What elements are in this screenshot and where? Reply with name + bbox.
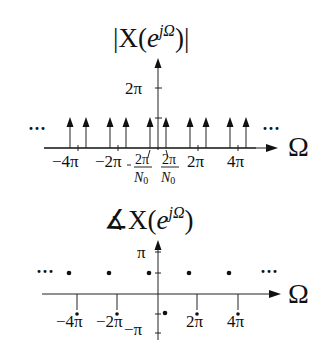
- svg-text:2π: 2π: [135, 152, 149, 167]
- impulse-arrow-icon: [203, 117, 210, 148]
- x-tick-label-neg4pi: −4π: [52, 152, 79, 171]
- phase-dots: [67, 271, 240, 316]
- phase-dot: [67, 271, 72, 276]
- impulse-arrow-icon: [107, 117, 114, 148]
- impulse-arrow-icon: [147, 117, 154, 148]
- y-tick-label-2pi: 2π: [125, 79, 143, 98]
- ellipsis-right: ···: [262, 119, 280, 139]
- phase-dot: [187, 271, 192, 276]
- x-axis-arrow-icon: [269, 290, 281, 298]
- impulse-arrow-icon: [187, 117, 194, 148]
- x-axis-label-omega: Ω: [288, 278, 309, 309]
- x-tick-label-4pi: 4π: [227, 152, 245, 171]
- ellipsis-left: ···: [28, 119, 46, 139]
- impulse-arrow-icon: [123, 117, 130, 148]
- ellipsis-left: ···: [36, 262, 54, 282]
- fraction-2pi-over-N0: 2π N0: [160, 152, 179, 186]
- y-axis-arrow-icon: [155, 240, 162, 250]
- magnitude-title: |X(ejΩ)|: [113, 22, 189, 53]
- svg-text:N0: N0: [160, 170, 175, 186]
- x-tick-label-4pi: 4π: [227, 312, 245, 331]
- x-axis-label-omega: Ω: [288, 131, 309, 162]
- impulse-arrow-icon: [67, 117, 74, 148]
- impulse-arrow-icon: [227, 117, 234, 148]
- x-tick-label-neg4pi: −4π: [56, 312, 83, 331]
- phase-dot: [163, 311, 168, 316]
- x-tick-label-2pi: 2π: [186, 312, 204, 331]
- phase-dot: [107, 271, 112, 276]
- x-tick-label-neg2pi: −2π: [96, 312, 123, 331]
- x-tick-label-2pi: 2π: [187, 152, 205, 171]
- impulse-arrow-icon: [243, 117, 250, 148]
- phase-title: ∡X(ejΩ): [104, 204, 194, 235]
- fraction-neg-2pi-over-N0: 2π N0: [127, 152, 152, 186]
- y-tick-label-neg-pi: −π: [124, 320, 143, 339]
- spectrum-diagram: |X(ejΩ)| 2π Ω ··· ···: [0, 0, 330, 350]
- svg-text:2π: 2π: [162, 152, 176, 167]
- phase-plot: ∡X(ejΩ) π −π Ω ··· ···: [36, 204, 309, 340]
- phase-dot: [147, 271, 152, 276]
- magnitude-plot: |X(ejΩ)| 2π Ω ··· ···: [28, 22, 309, 186]
- impulse-arrow-icon: [163, 117, 170, 148]
- impulse-arrow-icon: [83, 117, 90, 148]
- y-tick-label-pi: π: [137, 243, 146, 262]
- svg-text:N0: N0: [133, 170, 148, 186]
- x-tick-label-neg2pi: −2π: [95, 152, 122, 171]
- ellipsis-right: ···: [260, 262, 278, 282]
- y-axis-arrow-icon: [155, 58, 162, 68]
- phase-dot: [227, 271, 232, 276]
